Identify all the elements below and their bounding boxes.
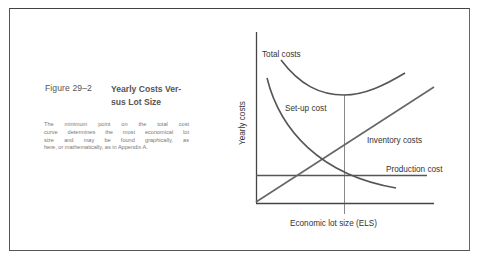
y-axis-label: Yearly costs [238,101,247,145]
label-total-costs: Total costs [262,50,301,59]
label-setup-cost: Set-up cost [285,104,327,113]
label-inventory-costs: Inventory costs [367,136,422,145]
label-production-cost: Production cost [386,165,443,174]
total-cost-curve [281,60,405,95]
cost-chart: Total costs Set-up cost Inventory costs … [0,0,478,261]
x-axis-label: Economic lot size (ELS) [290,219,377,228]
